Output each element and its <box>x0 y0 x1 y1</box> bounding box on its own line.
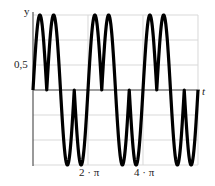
t-axis-label: t <box>202 85 205 97</box>
x-tick-label-4pi: 4 · π <box>134 166 154 178</box>
y-axis-label: y <box>24 5 30 17</box>
x-tick-label-2pi: 2 · π <box>79 166 99 178</box>
plot-area <box>0 0 215 186</box>
y-tick-label: 0,5 <box>14 58 28 70</box>
